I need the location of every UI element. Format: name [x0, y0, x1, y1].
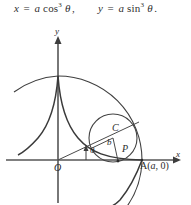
equation-y: y = a sin3 θ.	[98, 2, 159, 14]
origin-label: O	[54, 162, 61, 173]
point-P-label: P	[122, 143, 128, 154]
equation-y-coefficient: a	[118, 2, 124, 14]
y-axis	[55, 36, 62, 203]
point-A-prefix: A(	[140, 160, 151, 171]
theta-label: θ	[90, 145, 94, 155]
equation-x-coefficient: a	[34, 2, 40, 14]
equation-x-punctuation: ,	[71, 2, 77, 14]
y-axis-label: y	[55, 26, 59, 36]
radius-b-label: b	[107, 137, 112, 147]
astroid-svg	[0, 20, 191, 205]
y-axis-arrow	[55, 36, 62, 44]
point-P-marker	[117, 160, 120, 163]
point-A-label: A(a, 0)	[140, 160, 169, 171]
equation-y-function: sin	[127, 2, 140, 14]
x-axis-label: x	[176, 149, 180, 159]
equation-y-angle: θ	[147, 2, 153, 14]
equation-x-power: 3	[58, 1, 62, 9]
outer-circle-arc-upper-left	[14, 76, 58, 92]
equation-x-function: cos	[43, 2, 58, 14]
equation-x-equals: =	[22, 2, 31, 14]
astroid-branch-upper-left	[18, 76, 58, 155]
equation-x: x = a cos3 θ,	[14, 2, 77, 14]
equation-x-angle: θ	[65, 2, 71, 14]
equation-y-equals: =	[106, 2, 115, 14]
equation-y-punctuation: .	[153, 2, 159, 14]
equation-y-power: 3	[141, 1, 145, 9]
astroid-diagram: y x O A(a, 0) C b P θ	[0, 20, 191, 205]
equation-line: x = a cos3 θ, y = a sin3 θ.	[0, 0, 191, 22]
figure-panel: x = a cos3 θ, y = a sin3 θ.	[0, 0, 191, 205]
astroid-branch-lower-right	[112, 160, 142, 205]
point-A-suffix: , 0)	[156, 160, 169, 171]
equation-y-lhs: y	[98, 2, 103, 14]
center-C-label: C	[112, 122, 119, 133]
equation-x-lhs: x	[14, 2, 19, 14]
